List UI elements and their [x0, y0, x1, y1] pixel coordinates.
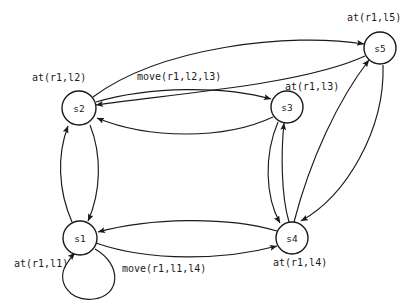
- edge-s1-to-s2: [61, 126, 72, 222]
- action-label-s1-s4: move(r1,l1,l4): [122, 263, 206, 274]
- state-label-s4: at(r1,l4): [273, 257, 327, 268]
- node-s3-label: s3: [281, 102, 292, 113]
- state-label-s2: at(r1,l2): [32, 72, 86, 83]
- action-label-s2-s3: move(r1,l2,l3): [137, 71, 221, 82]
- action-labels-layer: move(r1,l2,l3) move(r1,l1,l4): [122, 71, 221, 274]
- edge-s4-to-s3: [282, 123, 289, 222]
- state-label-s3: at(r1,l3): [285, 81, 339, 92]
- state-transition-diagram: s1 s2 s3 s4 s5 at(r1,l1) at(r1,l2): [0, 0, 419, 307]
- node-s3[interactable]: s3: [271, 91, 303, 123]
- node-s4[interactable]: s4: [276, 222, 308, 254]
- node-s1-label: s1: [74, 233, 86, 244]
- state-label-s1: at(r1,l1): [14, 258, 68, 269]
- node-s4-label: s4: [286, 233, 298, 244]
- graph-canvas: s1 s2 s3 s4 s5 at(r1,l1) at(r1,l2): [0, 0, 419, 307]
- edge-s3-to-s4: [268, 122, 280, 223]
- edge-s3-to-s2: [97, 117, 273, 134]
- edge-s2-to-s1: [88, 125, 98, 221]
- edge-s1-self-loop: [63, 249, 115, 299]
- state-label-s5: at(r1,l5): [347, 12, 401, 23]
- nodes-layer: s1 s2 s3 s4 s5: [62, 32, 396, 255]
- edge-s1-to-s4: [96, 243, 277, 257]
- node-s5-label: s5: [374, 43, 385, 54]
- node-s2[interactable]: s2: [62, 91, 96, 125]
- node-s1[interactable]: s1: [63, 221, 97, 255]
- edges-layer: [61, 40, 384, 299]
- node-s5[interactable]: s5: [364, 32, 396, 64]
- edge-s4-to-s1: [98, 221, 277, 232]
- node-s2-label: s2: [73, 103, 84, 114]
- edge-s2-to-s3: [96, 90, 271, 102]
